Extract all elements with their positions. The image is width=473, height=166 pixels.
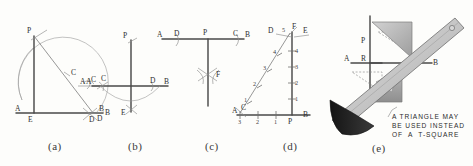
panel-d-vert-num-2: 2 bbox=[295, 79, 298, 86]
panel-d-label-a: A bbox=[232, 106, 238, 115]
panel-e-label-b: B bbox=[433, 58, 438, 67]
panel-b-label-b2: B bbox=[105, 108, 110, 117]
panel-d-diag-num-1: 1 bbox=[244, 96, 247, 103]
panel-c-label-a: A bbox=[157, 30, 163, 39]
panel-d-diagonal bbox=[240, 33, 290, 113]
panel-d-label-p: P bbox=[288, 117, 292, 126]
panel-b-label-p: P bbox=[123, 31, 127, 40]
panel-d-vert-num-1: 1 bbox=[295, 95, 298, 102]
panel-e-label-a: A bbox=[344, 54, 350, 63]
panel-a-label-e: E bbox=[28, 115, 33, 124]
panel-e-label-r: R bbox=[361, 54, 366, 63]
panel-a-label-d: D bbox=[89, 115, 95, 124]
panel-c-label-b: B bbox=[245, 30, 250, 39]
panel-c-label-f: F bbox=[216, 70, 220, 79]
panel-c: A D P C B F bbox=[157, 28, 250, 106]
panel-d-ray-e bbox=[294, 35, 309, 37]
panel-c-label-d: D bbox=[174, 29, 180, 38]
panel-d-label-5: 5 bbox=[282, 26, 285, 33]
panel-b-ray-p bbox=[128, 38, 137, 43]
panel-d-vert-num-4: 4 bbox=[295, 47, 298, 54]
panel-a-label-c: C bbox=[71, 68, 76, 77]
panel-d-label-f: F bbox=[292, 22, 296, 31]
panel-d-vert-num-3: 3 bbox=[295, 63, 298, 70]
panel-b-label-c: C bbox=[101, 74, 106, 83]
panel-d-base-num-3: 3 bbox=[238, 118, 241, 125]
panel-b-label-a: A bbox=[86, 77, 92, 86]
panel-a-label-b: B bbox=[99, 104, 104, 113]
panel-d-base-num-2: 2 bbox=[256, 118, 259, 125]
caption-b: (b) bbox=[128, 140, 142, 152]
caption-a: (a) bbox=[48, 140, 62, 152]
panel-c-f-arc-1 bbox=[197, 70, 203, 84]
panel-e-triangle-upper bbox=[372, 22, 412, 58]
panel-d-label-b: B bbox=[303, 110, 308, 119]
caption-e: (e) bbox=[372, 142, 386, 154]
panel-a-label-c2: C bbox=[91, 75, 96, 84]
caption-c: (c) bbox=[205, 140, 219, 152]
panel-e-label-p: P bbox=[361, 36, 365, 45]
panel-d-diag-tick-1 bbox=[247, 101, 252, 104]
panel-d-base-num-1: 1 bbox=[274, 118, 277, 125]
panel-d-diag-num-4: 4 bbox=[273, 48, 276, 55]
panel-d-label-d: D bbox=[268, 26, 274, 35]
panel-a-diagonal bbox=[34, 36, 93, 113]
figure-sheet: P C A E D B A C bbox=[0, 0, 473, 166]
panel-d-label-e: E bbox=[303, 26, 308, 35]
panel-c-label-c: C bbox=[233, 29, 238, 38]
panel-b-label-b: B bbox=[164, 77, 169, 86]
panel-b-label-d2: D bbox=[97, 114, 103, 123]
panel-d-diag-tick-4 bbox=[277, 53, 282, 56]
panel-d-diag-tick-2 bbox=[257, 85, 262, 88]
panel-d-diag-num-3: 3 bbox=[263, 64, 266, 71]
panel-a-c-mark bbox=[64, 72, 70, 76]
panel-a-label-a: A bbox=[15, 104, 21, 113]
panel-c-label-p: P bbox=[203, 28, 207, 37]
panel-b-arc bbox=[100, 86, 160, 101]
caption-d: (d) bbox=[283, 140, 297, 152]
panel-d-label-c: C bbox=[241, 103, 246, 112]
panel-a-arc-upper bbox=[18, 48, 33, 100]
panel-b-label-d: D bbox=[150, 76, 156, 85]
panel-e-note: A TRIANGLE MAY BE USED INSTEAD OF A T-SQ… bbox=[392, 112, 465, 140]
panel-a-label-p: P bbox=[27, 26, 31, 35]
panel-a-ray bbox=[31, 30, 47, 40]
panel-d-diag-tick-3 bbox=[267, 69, 272, 72]
construction-drawings: P C A E D B A C bbox=[0, 0, 473, 166]
panel-a: P C A E D B A C bbox=[15, 26, 108, 124]
panel-d: D 5 F E A C P B 1 2 3 4 1 2 3 4 3 2 1 bbox=[232, 22, 310, 126]
panel-b-label-e: E bbox=[121, 108, 126, 117]
panel-d-diag-num-2: 2 bbox=[253, 80, 256, 87]
